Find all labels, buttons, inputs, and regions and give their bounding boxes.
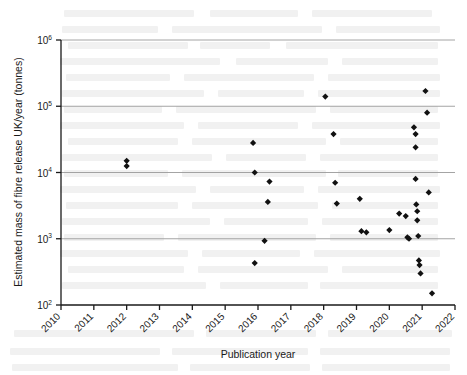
data-point-marker bbox=[411, 124, 417, 130]
data-point-marker bbox=[424, 110, 430, 116]
data-point-marker bbox=[252, 169, 258, 175]
x-tick-label: 2015 bbox=[203, 310, 227, 334]
data-point-marker bbox=[416, 262, 422, 268]
data-point-marker bbox=[413, 144, 419, 150]
data-point-marker bbox=[386, 227, 392, 233]
x-tick-label: 2022 bbox=[433, 310, 457, 334]
data-point-marker bbox=[415, 233, 421, 239]
x-axis-title: Publication year bbox=[221, 348, 296, 360]
y-tick-label: 102 bbox=[37, 299, 52, 312]
x-tick-label: 2011 bbox=[72, 310, 95, 333]
plot-canvas: 102103104105106 201020112012201320142015… bbox=[0, 0, 467, 375]
x-axis-tick-labels: 2010201120122013201420152016201720182019… bbox=[39, 310, 457, 334]
data-point-marker bbox=[413, 176, 419, 182]
gridlines bbox=[61, 40, 455, 239]
x-tick-label: 2017 bbox=[269, 310, 293, 334]
data-point-marker bbox=[357, 196, 363, 202]
y-axis-tick-labels: 102103104105106 bbox=[37, 34, 52, 312]
data-point-marker bbox=[265, 199, 271, 205]
x-tick-label: 2016 bbox=[236, 310, 260, 334]
data-point-marker bbox=[330, 131, 336, 137]
data-point-marker bbox=[413, 131, 419, 137]
data-point-marker bbox=[413, 201, 419, 207]
x-tick-label: 2019 bbox=[334, 310, 358, 334]
y-tick-label: 106 bbox=[37, 34, 52, 47]
data-point-marker bbox=[429, 290, 435, 296]
data-points-layer bbox=[124, 88, 436, 297]
x-tick-label: 2020 bbox=[367, 310, 391, 334]
x-axis-ticks bbox=[61, 305, 455, 310]
x-tick-label: 2021 bbox=[400, 310, 424, 334]
data-point-marker bbox=[334, 200, 340, 206]
data-point-marker bbox=[396, 210, 402, 216]
y-tick-label: 103 bbox=[37, 232, 52, 245]
data-point-marker bbox=[363, 229, 369, 235]
x-tick-label: 2013 bbox=[137, 310, 161, 334]
data-point-marker bbox=[322, 93, 328, 99]
x-tick-label: 2014 bbox=[170, 310, 194, 334]
y-axis-ticks bbox=[56, 40, 61, 305]
x-tick-label: 2018 bbox=[302, 310, 326, 334]
data-point-marker bbox=[358, 228, 364, 234]
data-point-marker bbox=[416, 257, 422, 263]
x-tick-label: 2012 bbox=[105, 310, 129, 334]
y-tick-label: 104 bbox=[37, 166, 52, 179]
data-point-marker bbox=[426, 189, 432, 195]
x-tick-label: 2010 bbox=[39, 310, 63, 334]
data-point-marker bbox=[332, 180, 338, 186]
data-point-marker bbox=[250, 140, 256, 146]
data-point-marker bbox=[403, 213, 409, 219]
data-point-marker bbox=[414, 208, 420, 214]
scatter-plot-figure: 102103104105106 201020112012201320142015… bbox=[0, 0, 467, 375]
data-point-marker bbox=[266, 178, 272, 184]
y-axis-title: Estimated mass of fibre release UK/year … bbox=[12, 57, 24, 286]
data-point-marker bbox=[417, 270, 423, 276]
data-point-marker bbox=[422, 88, 428, 94]
data-point-marker bbox=[252, 260, 258, 266]
data-point-marker bbox=[414, 217, 420, 223]
y-tick-label: 105 bbox=[37, 100, 52, 113]
data-point-marker bbox=[124, 163, 130, 169]
